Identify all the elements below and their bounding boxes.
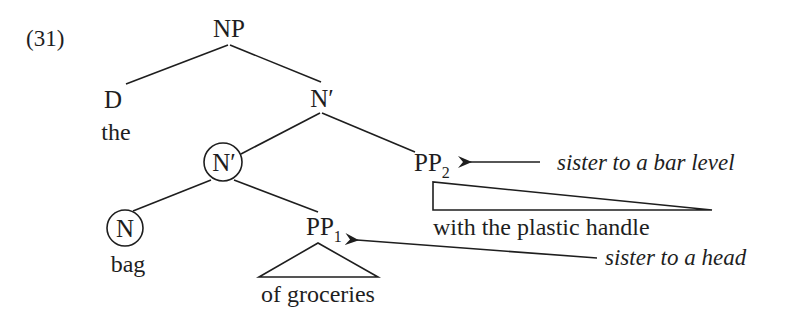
annotation-sister-head: sister to a head <box>605 245 747 270</box>
edge-np-d <box>126 45 228 84</box>
d-word-the: the <box>101 119 130 145</box>
edge-nbar-pp2 <box>322 113 415 152</box>
pp1-label: PP1 <box>306 213 342 245</box>
edge-nbar-nbar <box>241 113 320 154</box>
pp1-phrase: of groceries <box>261 281 375 307</box>
pp2-label: PP2 <box>414 149 450 181</box>
nbar-upper-label: N′ <box>310 85 334 112</box>
pp2-phrase: with the plastic handle <box>433 214 650 240</box>
arrow-pp1 <box>357 240 597 258</box>
pp1-triangle <box>259 243 378 277</box>
pp2-triangle <box>433 182 712 210</box>
edge-np-nbar <box>230 45 321 82</box>
np-root-label: NP <box>213 15 245 42</box>
example-number: (31) <box>26 26 64 51</box>
edge-nbar-n <box>133 180 211 211</box>
syntax-tree-diagram: (31) NP D the N′ N′ N bag PP1 of groceri… <box>0 0 796 325</box>
edge-nbar-pp1 <box>234 180 318 212</box>
annotation-sister-bar-level: sister to a bar level <box>557 150 735 175</box>
nbar-lower-label: N′ <box>212 149 236 176</box>
n-word-bag: bag <box>111 251 146 277</box>
d-label: D <box>104 86 122 113</box>
n-head-label: N <box>116 215 134 242</box>
